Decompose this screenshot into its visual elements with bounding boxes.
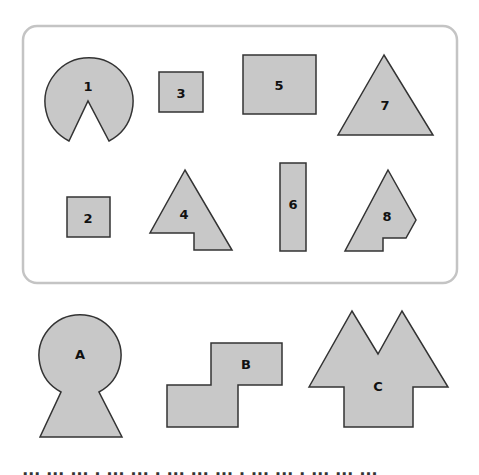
piece-3-label: 3: [176, 86, 185, 101]
target-A-label: A: [75, 347, 85, 362]
piece-4-label: 4: [179, 207, 188, 222]
piece-2-label: 2: [83, 211, 92, 226]
target-B: B: [167, 343, 282, 427]
piece-7-label: 7: [380, 98, 389, 113]
target-C-label: C: [373, 379, 383, 394]
target-B-label: B: [241, 357, 251, 372]
piece-3[interactable]: 3: [159, 72, 203, 112]
cut-off-text-line: ▮▮▮ ▮▮▮ ▮▮▮ ▮ ▮▮▮ ▮▮▮ ▮ ▮▮▮ ▮▮▮ ▮▮▮ ▮ ▮▮…: [22, 467, 382, 475]
piece-6[interactable]: 6: [280, 163, 306, 251]
piece-8-label: 8: [382, 209, 391, 224]
target-C: C: [309, 311, 448, 427]
target-A: A: [39, 315, 122, 437]
piece-6-label: 6: [288, 197, 297, 212]
piece-1-label: 1: [83, 79, 92, 94]
piece-2[interactable]: 2: [67, 197, 110, 237]
piece-5[interactable]: 5: [243, 55, 316, 114]
puzzle-canvas: 1 3 5 7 2 4 6 8 A B: [0, 0, 479, 475]
piece-5-label: 5: [274, 78, 283, 93]
